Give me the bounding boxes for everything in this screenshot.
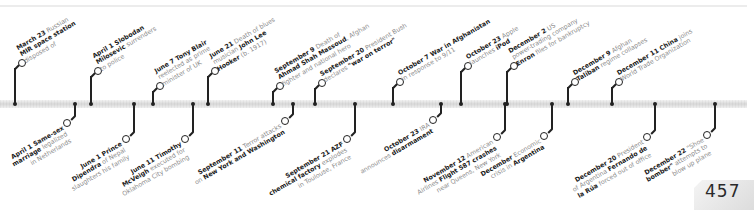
connector-line <box>133 104 135 132</box>
event-label-june-21: June 21 Death of bluesmusician John LeeH… <box>208 15 284 72</box>
event-label-september-21: September 21 AZFchemical factory explode… <box>264 140 352 204</box>
event-marker-icon <box>181 135 189 143</box>
connector-line <box>314 88 316 104</box>
page-number: 457 <box>705 181 740 201</box>
event-marker-icon <box>643 133 651 141</box>
top-rule <box>0 5 747 7</box>
connector-line <box>272 91 274 104</box>
connector-line <box>654 104 656 130</box>
connector-line <box>354 104 356 132</box>
connector-elbow <box>288 113 293 118</box>
connector-elbow <box>70 115 75 120</box>
event-label-september-11: September 11 Terror attackson New York a… <box>190 122 286 186</box>
event-highlight: New York and Washington <box>202 128 286 181</box>
event-text: announces <box>359 151 394 175</box>
event-label-april-1: April 1 Same-sexmarriage legalizedin Net… <box>7 124 72 174</box>
event-label-december-11: December 11 China joinsWorld Trade Organ… <box>616 27 698 83</box>
event-text: Apple <box>499 25 520 41</box>
connector-line <box>152 91 154 104</box>
connector-line <box>14 68 16 104</box>
connector-line <box>392 87 394 104</box>
connector-line <box>506 71 508 104</box>
connector-line <box>90 76 92 104</box>
connector-line <box>611 87 613 104</box>
connector-elbow <box>500 129 505 134</box>
event-marker-icon <box>429 116 437 124</box>
connector-elbow <box>129 131 134 136</box>
event-label-october-23: October 23 IRAannounces disarmament <box>355 121 434 175</box>
event-label-june-7: June 7 Tony Blairreelected as primeminis… <box>153 38 216 87</box>
event-marker-icon <box>540 132 548 140</box>
event-marker-icon <box>122 135 130 143</box>
connector-elbow <box>650 129 655 134</box>
event-label-march-23: March 23 RussianMIR space stationdispose… <box>15 13 81 64</box>
connector-line <box>192 104 194 132</box>
event-text: , Afghan <box>344 22 370 41</box>
connector-line <box>207 76 209 104</box>
connector-elbow <box>436 112 441 117</box>
event-marker-icon <box>63 119 71 127</box>
connector-elbow <box>547 128 552 133</box>
connector-elbow <box>710 127 715 132</box>
connector-line <box>714 104 716 128</box>
event-label-april-1: April 1 SlobodanMilosevic surrendersto p… <box>91 18 162 72</box>
event-marker-icon <box>703 131 711 139</box>
timeline-bar <box>0 100 747 108</box>
event-marker-icon <box>343 135 351 143</box>
connector-line <box>504 104 506 130</box>
event-marker-icon <box>493 133 501 141</box>
event-label-december-20: December 20 Presidentof Argentina Fernan… <box>567 138 652 200</box>
connector-elbow <box>188 131 193 136</box>
connector-line <box>460 71 462 104</box>
connector-line <box>567 87 569 104</box>
event-marker-icon <box>281 117 289 125</box>
connector-elbow <box>350 131 355 136</box>
connector-line <box>551 104 553 129</box>
